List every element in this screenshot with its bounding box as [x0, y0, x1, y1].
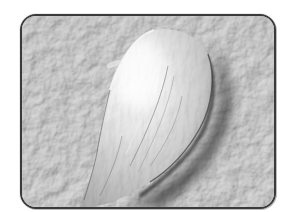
micrograph-frame — [20, 14, 276, 209]
micrograph-image — [22, 16, 274, 207]
image-canvas — [0, 0, 286, 212]
